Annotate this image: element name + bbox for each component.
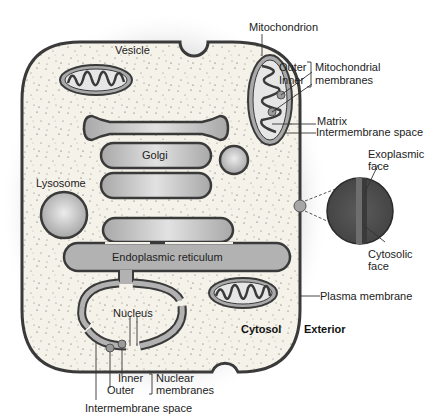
label-nuc-membranes-2: membranes (156, 384, 215, 396)
plasma-membrane-marker (294, 200, 306, 212)
label-plasma-membrane: Plasma membrane (320, 290, 412, 302)
label-exoplasmic-1: Exoplasmic (368, 148, 425, 160)
lysosome (41, 192, 87, 238)
label-cytosol: Cytosol (241, 323, 281, 335)
label-nucleus: Nucleus (113, 307, 153, 319)
label-nuc-membranes-1: Nuclear (156, 372, 194, 384)
label-exoplasmic-2: face (368, 160, 389, 172)
mitochondrion-bottom (209, 278, 277, 308)
label-er: Endoplasmic reticulum (112, 251, 223, 263)
label-mitochondrion: Mitochondrion (249, 21, 318, 33)
label-vesicle: Vesicle (115, 44, 150, 56)
nuc-outer-marker (106, 344, 114, 352)
label-cytosolic-2: face (368, 260, 389, 272)
label-golgi: Golgi (142, 149, 168, 161)
label-nuc-intermembrane: Intermembrane space (85, 402, 192, 414)
label-nuc-outer: Outer (107, 384, 135, 396)
label-mito-inner: Inner (279, 74, 304, 86)
label-lysosome: Lysosome (36, 177, 86, 189)
label-mito-membranes-2: membranes (315, 74, 374, 86)
mitochondrion-top-left (60, 65, 132, 95)
bilayer-zoom (327, 178, 393, 244)
label-nuc-inner: Inner (118, 372, 143, 384)
label-mito-intermembrane: Intermembrane space (316, 126, 423, 138)
nuc-inner-marker (118, 340, 126, 348)
label-mito-membranes-1: Mitochondrial (315, 61, 380, 73)
cell-diagram: Vesicle Mitochondrion Outer Inner Mitoch… (0, 0, 442, 415)
label-cytosolic-1: Cytosolic (368, 248, 413, 260)
label-mito-outer: Outer (279, 61, 307, 73)
label-exterior: Exterior (304, 323, 346, 335)
